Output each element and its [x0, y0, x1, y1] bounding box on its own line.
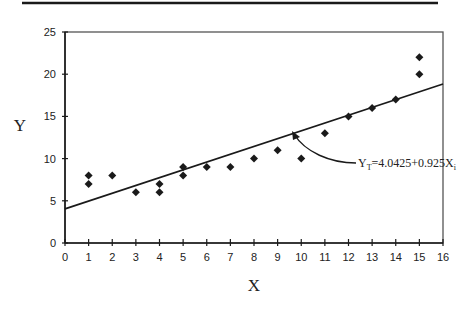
regression-equation: YT=4.0425+0.925Xi	[358, 156, 457, 172]
plot-frame	[65, 32, 443, 243]
y-tick-label: 5	[50, 195, 56, 207]
data-points	[85, 53, 424, 196]
data-point-diamond	[132, 188, 140, 196]
data-point-diamond	[415, 70, 423, 78]
data-point-diamond	[250, 155, 258, 163]
y-axis-title: Y	[14, 116, 26, 135]
data-point-diamond	[156, 188, 164, 196]
x-tick-label: 1	[86, 251, 92, 263]
y-tick-label: 15	[44, 110, 56, 122]
x-tick-label: 13	[366, 251, 378, 263]
x-tick-label: 16	[437, 251, 449, 263]
x-tick-label: 7	[227, 251, 233, 263]
data-point-diamond	[179, 171, 187, 179]
y-tick-label: 20	[44, 68, 56, 80]
x-tick-label: 8	[251, 251, 257, 263]
x-tick-label: 15	[413, 251, 425, 263]
x-tick-label: 12	[342, 251, 354, 263]
data-point-diamond	[368, 104, 376, 112]
data-point-diamond	[179, 163, 187, 171]
x-tick-label: 3	[133, 251, 139, 263]
x-tick-label: 6	[204, 251, 210, 263]
plot-border	[65, 32, 443, 243]
x-tick-label: 9	[275, 251, 281, 263]
y-tick-label: 25	[44, 26, 56, 38]
data-point-diamond	[321, 129, 329, 137]
x-tick-label: 10	[295, 251, 307, 263]
x-tick-label: 4	[156, 251, 162, 263]
data-point-diamond	[85, 171, 93, 179]
data-point-diamond	[108, 171, 116, 179]
data-point-diamond	[226, 163, 234, 171]
data-point-diamond	[415, 53, 423, 61]
data-point-diamond	[297, 155, 305, 163]
data-point-diamond	[156, 180, 164, 188]
x-tick-label: 11	[319, 251, 330, 263]
data-point-diamond	[203, 163, 211, 171]
data-point-diamond	[274, 146, 282, 154]
x-tick-label: 5	[180, 251, 186, 263]
data-point-diamond	[392, 96, 400, 104]
x-tick-label: 14	[390, 251, 402, 263]
y-tick-label: 10	[44, 153, 56, 165]
x-axis-title: X	[248, 276, 260, 295]
scatter-chart: 0510152025 012345678910111213141516 YT=4…	[0, 0, 463, 319]
regression-line	[65, 84, 443, 209]
x-tick-label: 0	[62, 251, 68, 263]
data-point-diamond	[85, 180, 93, 188]
x-tick-label: 2	[109, 251, 115, 263]
y-tick-label: 0	[50, 237, 56, 249]
